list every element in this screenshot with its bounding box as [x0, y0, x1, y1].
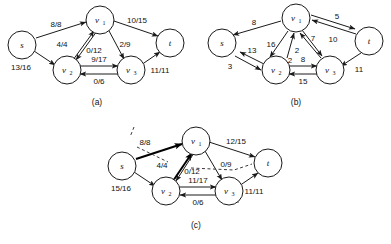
edge-label-v2-s: 13: [248, 46, 257, 55]
edge-label-v3-t: 11/11: [151, 66, 170, 75]
edge-label-v1-v2: 0/12: [184, 167, 200, 176]
node-sub-v1: 1: [299, 18, 302, 24]
node-s: s: [208, 29, 236, 57]
node-sub-v2: 2: [70, 70, 73, 76]
edge-label-v1-s: 8: [252, 18, 257, 27]
node-v3: v 3: [316, 56, 344, 84]
node-v2: v 2: [262, 56, 290, 84]
edge-label-s-v1: 8/8: [139, 138, 151, 147]
node-label-v2: v: [271, 65, 275, 75]
node-v1: v 1: [86, 6, 114, 34]
panel-b: 8 13 3 16 2 7 2 10 5 8 15 11 s v 1: [208, 4, 383, 107]
panel-a: 8/8 13/16 4/4 0/12 2/9 10/15 9/17 0/6 11…: [8, 6, 184, 107]
edge-label-s-v1: 8/8: [50, 20, 62, 29]
edge-label-v1-v3: 2/9: [119, 40, 131, 49]
edge-label-v1-t: 12/15: [226, 137, 247, 146]
node-sub-v1: 1: [103, 20, 106, 26]
edge-label-v3-v2: 0/6: [192, 198, 204, 207]
edge-t-v3: [341, 53, 361, 66]
edge-label-v2-v1: 4/4: [156, 161, 168, 170]
edge-label-v3-v2: 0/6: [93, 77, 105, 86]
edge-s-v2: [134, 172, 155, 186]
node-label-s: s: [220, 38, 224, 48]
node-label-v3: v: [224, 186, 228, 196]
node-label-v2: v: [161, 186, 165, 196]
edge-label-v2-v3: 8: [301, 55, 306, 64]
panel-c: 8/8 15/16 4/4 0/12 0/9 12/15 11/17 0/6 1…: [108, 127, 282, 230]
node-s: s: [8, 31, 36, 59]
node-s: s: [108, 152, 136, 180]
node-label-v2: v: [62, 65, 66, 75]
edge-label-s-v2: 3: [228, 62, 233, 71]
edge-v1-s: [233, 21, 281, 35]
node-v2: v 2: [53, 56, 81, 84]
node-sub-v3: 3: [333, 70, 336, 76]
edge-label-v1-v3: 0/9: [220, 160, 232, 169]
node-label-s: s: [20, 40, 24, 50]
edge-s-v2: [235, 56, 261, 70]
edge-label-v3-v1: 7: [311, 34, 316, 43]
edge-s-v2: [34, 51, 55, 65]
node-label-v1: v: [95, 15, 99, 25]
node-t: t: [355, 27, 383, 55]
node-t: t: [254, 149, 282, 177]
edge-label-t-v1: 10: [329, 35, 338, 44]
edge-v3-t: [141, 52, 160, 65]
edge-label-s-v2: 13/16: [11, 63, 32, 72]
node-t: t: [156, 29, 184, 57]
edge-label-v1-t: 10/15: [127, 16, 148, 25]
edge-label-t-v3: 11: [355, 65, 364, 74]
node-sub-v1: 1: [199, 141, 202, 147]
node-label-v1: v: [291, 13, 295, 23]
edge-label-v1-v2: 16: [267, 40, 276, 49]
node-v2: v 2: [152, 177, 180, 205]
edge-label-v2-v3: 11/17: [188, 176, 208, 185]
node-sub-v2: 2: [279, 70, 282, 76]
caption-a: (a): [92, 97, 103, 107]
augmenting-path-tick-left: [130, 127, 134, 137]
caption-b: (b): [291, 97, 302, 107]
node-label-s: s: [120, 161, 124, 171]
edge-label-v2-v1: 4/4: [56, 40, 68, 49]
edge-v3-t: [239, 173, 258, 186]
node-label-v3: v: [325, 65, 329, 75]
caption-c: (c): [191, 220, 201, 230]
edge-label-v3-v2: 15: [299, 77, 308, 86]
edge-v2-v1: [287, 33, 294, 58]
figure-canvas: 8/8 13/16 4/4 0/12 2/9 10/15 9/17 0/6 11…: [0, 0, 391, 244]
node-sub-v3: 3: [232, 191, 235, 197]
edge-label-s-v2: 15/16: [111, 184, 132, 193]
node-v1: v 1: [182, 127, 210, 155]
node-v3: v 3: [215, 177, 243, 205]
edge-label-v3-t: 11/11: [245, 187, 264, 196]
edge-label-v1-v2: 0/12: [86, 46, 102, 55]
node-v3: v 3: [117, 56, 145, 84]
edge-label-v2-v1: 2: [295, 46, 300, 55]
node-v1: v 1: [282, 4, 310, 32]
figure-root: 8/8 13/16 4/4 0/12 2/9 10/15 9/17 0/6 11…: [0, 0, 391, 244]
edge-label-v2-v3: 9/17: [91, 55, 107, 64]
node-label-v1: v: [191, 136, 195, 146]
node-sub-v3: 3: [134, 70, 137, 76]
node-label-v3: v: [126, 65, 130, 75]
node-sub-v2: 2: [169, 191, 172, 197]
edge-label-v1-t: 5: [335, 12, 340, 21]
